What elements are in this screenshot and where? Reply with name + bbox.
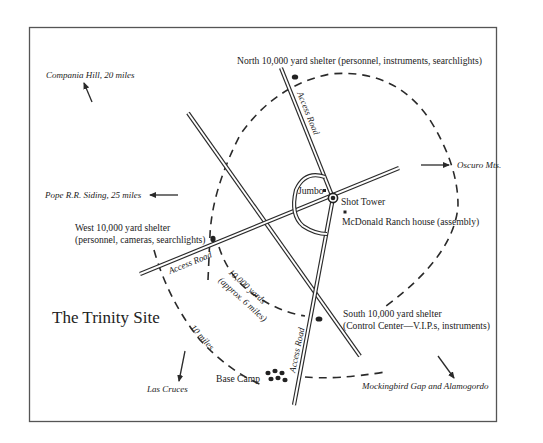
compania-hill-label: Compania Hill, 20 miles	[46, 70, 135, 80]
las-cruces-label: Las Cruces	[146, 384, 188, 394]
oscuro-label: Oscuro Mts.	[457, 160, 501, 170]
outer-ring-south-arc	[305, 372, 385, 378]
south-shelter-label-line2: (Control Center—V.I.P.s, instruments)	[343, 320, 490, 332]
trinity-site-map: North 10,000 yard shelter (personnel, in…	[0, 0, 543, 443]
south-shelter-label-line1: South 10,000 yard shelter	[343, 308, 442, 319]
outer-ring-upper-arc	[208, 73, 458, 306]
outer-ring-label: 10 miles	[189, 323, 217, 353]
north-shelter-label: North 10,000 yard shelter (personnel, in…	[237, 55, 482, 67]
west-shelter-label-line2: (personnel, cameras, searchlights)	[75, 234, 206, 246]
base-camp-markers	[265, 369, 287, 382]
mcdonald-ranch-label: McDonald Ranch house (assembly)	[342, 216, 479, 228]
mockingbird-arrow	[438, 356, 454, 378]
north-shelter-marker	[292, 74, 298, 79]
jumbo-label: Jumbo	[298, 185, 324, 196]
south-shelter-marker	[316, 316, 323, 321]
base-camp-label: Base Camp	[216, 373, 260, 384]
shot-tower-label: Shot Tower	[341, 196, 386, 207]
compania-hill-arrow	[84, 83, 92, 102]
west-shelter-label-line1: West 10,000 yard shelter	[75, 222, 171, 233]
pope-siding-label: Pope R.R. Siding, 25 miles	[44, 190, 142, 200]
west-shelter-marker	[210, 236, 215, 242]
las-cruces-arrow	[179, 351, 185, 381]
mcdonald-ranch-marker	[344, 211, 347, 214]
map-title: The Trinity Site	[52, 308, 160, 327]
mockingbird-label: Mockingbird Gap and Alamogordo	[361, 381, 489, 391]
